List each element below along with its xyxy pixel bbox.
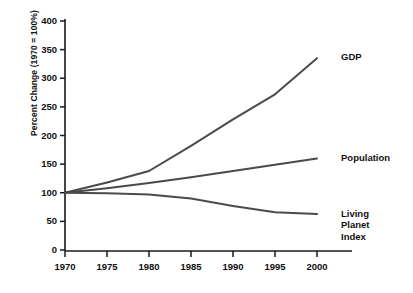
x-axis-tick-label: 1990 [213,261,253,272]
data-line-population [65,158,317,192]
chart-plot-area [0,0,413,293]
series-label-gdp: GDP [341,51,362,63]
y-axis-tick-label: 350 [27,44,57,55]
x-axis-ticks [65,251,317,257]
x-axis-tick-label: 1985 [171,261,211,272]
series-label-living-planet-index: Living Planet Index [341,208,370,243]
chart-container: Percent Change (1970 = 100%) 40035030025… [0,0,413,293]
data-series-group [65,58,317,214]
y-axis-tick-label: 200 [27,130,57,141]
y-axis-tick-label: 150 [27,158,57,169]
y-axis-tick-label: 300 [27,72,57,83]
data-line-gdp [65,58,317,193]
series-label-lpi-line-2: Planet [341,219,370,231]
y-axis-tick-label: 50 [27,215,57,226]
x-axis-tick-label: 2000 [297,261,337,272]
series-label-population: Population [341,152,390,164]
series-label-lpi-line-3: Index [341,231,370,243]
data-line-living-planet-index [65,193,317,214]
y-axis-tick-label: 0 [27,244,57,255]
y-axis-tick-label: 400 [27,15,57,26]
x-axis-tick-label: 1980 [129,261,169,272]
y-axis-tick-label: 250 [27,101,57,112]
x-axis-tick-label: 1975 [87,261,127,272]
y-axis-tick-label: 100 [27,187,57,198]
series-label-lpi-line-1: Living [341,208,370,220]
axes [60,19,352,257]
x-axis-tick-label: 1970 [45,261,85,272]
x-axis-tick-label: 1995 [255,261,295,272]
